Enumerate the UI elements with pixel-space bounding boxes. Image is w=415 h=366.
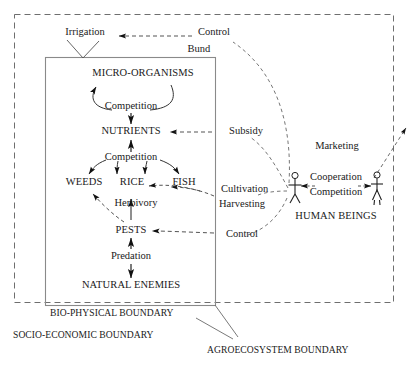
node-rice: RICE	[120, 177, 144, 188]
relation-cooperation: Cooperation	[310, 172, 362, 183]
link-human-to-subsidy	[250, 137, 288, 188]
male-stick-figure	[289, 172, 302, 203]
relation-competition-human: Competition	[310, 187, 363, 198]
relation-control-pests: Control	[226, 229, 258, 240]
agroecosystem-leader-lines	[196, 305, 238, 339]
node-natural-enemies: NATURAL ENEMIES	[82, 280, 180, 291]
node-irrigation: Irrigation	[65, 27, 105, 38]
relation-marketing: Marketing	[315, 141, 359, 152]
node-weeds: WEEDS	[66, 177, 103, 188]
relation-control-top: Control	[198, 27, 230, 38]
irrigation-bund-pointer	[67, 40, 99, 58]
boundary-label-bio-physical: BIO-PHYSICAL BOUNDARY	[50, 308, 174, 318]
relation-cultivation: Cultivation	[221, 184, 268, 195]
relation-competition-crop: Competition	[105, 152, 158, 163]
node-pests: PESTS	[116, 225, 147, 236]
node-micro-organisms: MICRO-ORGANISMS	[92, 68, 193, 79]
relation-harvesting: Harvesting	[219, 199, 265, 210]
relation-herbivory: Herbivory	[114, 198, 157, 209]
node-fish: FISH	[172, 177, 195, 188]
link-human-to-control-top	[233, 42, 289, 183]
node-human-beings: HUMAN BEINGS	[295, 211, 376, 222]
boundary-label-socio-economic: SOCIO-ECONOMIC BOUNDARY	[13, 330, 154, 340]
female-stick-figure	[371, 172, 383, 205]
node-nutrients: NUTRIENTS	[101, 126, 160, 137]
relation-predation: Predation	[111, 251, 151, 262]
relation-competition-micro: Competition	[105, 101, 158, 112]
relation-subsidy: Subsidy	[229, 126, 263, 137]
link-control-to-pests	[152, 231, 214, 233]
node-bund: Bund	[188, 44, 211, 55]
boundary-label-agroecosystem: AGROECOSYSTEM BOUNDARY	[207, 345, 349, 355]
diagram-canvas: Irrigation (dashed, leftward) ===== --> …	[0, 0, 415, 366]
link-marketing-outward	[374, 128, 406, 178]
